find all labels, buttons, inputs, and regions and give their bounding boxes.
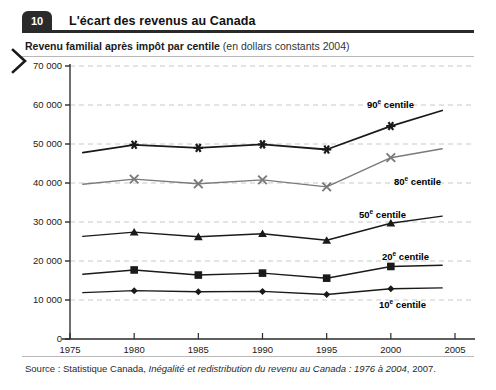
y-axis-tick-label: 40 000 (10, 177, 62, 188)
source-divider (22, 356, 474, 357)
series-label-3: 50e centile (359, 208, 406, 220)
chart-series-3 (83, 216, 442, 244)
x-axis-tick-label: 1990 (243, 344, 283, 355)
y-axis-tick-label: 10 000 (10, 294, 62, 305)
chart-series-group (83, 111, 442, 299)
x-axis-tick-label: 1975 (50, 344, 90, 355)
series-label-5: 10e centile (379, 298, 426, 310)
source-suffix: , 2007. (407, 363, 436, 374)
series-label-4: 20e centile (382, 250, 429, 262)
y-axis-tick-label: 70 000 (10, 60, 62, 71)
y-axis-tick-label: 0 (10, 333, 62, 344)
x-axis-tick-label: 1985 (178, 344, 218, 355)
x-axis-tick-label: 2000 (371, 344, 411, 355)
source-prefix: Source : Statistique Canada, (25, 363, 149, 374)
chart-series-1 (83, 111, 442, 154)
x-axis-tick-label: 1980 (114, 344, 154, 355)
series-label-2: 80e centile (394, 175, 441, 187)
x-axis-tick-label: 2005 (435, 344, 475, 355)
y-axis-tick-label: 20 000 (10, 255, 62, 266)
source-citation: Source : Statistique Canada, Inégalité e… (25, 363, 436, 374)
chart-series-4 (83, 263, 442, 282)
y-axis-tick-label: 60 000 (10, 99, 62, 110)
y-axis-tick-label: 50 000 (10, 138, 62, 149)
y-axis-tick-label: 30 000 (10, 216, 62, 227)
figure-page: 10 L'écart des revenus au Canada Revenu … (0, 0, 496, 390)
chart-series-5 (83, 285, 442, 298)
source-title: Inégalité et redistribution du revenu au… (149, 363, 407, 374)
chart-series-2 (83, 149, 442, 192)
x-axis-tick-label: 1995 (307, 344, 347, 355)
series-label-1: 90e centile (367, 98, 414, 110)
